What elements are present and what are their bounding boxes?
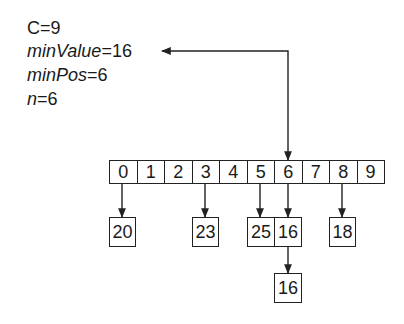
node-value: 16 [278, 278, 298, 299]
array-cell: 5 [247, 160, 276, 184]
value-node: 16 [274, 273, 302, 303]
node-value: 18 [332, 222, 352, 243]
value-node: 16 [274, 217, 302, 247]
node-value: 16 [278, 222, 298, 243]
value-node: 18 [329, 217, 356, 247]
cell-label: 4 [228, 162, 238, 183]
node-value: 25 [251, 222, 271, 243]
array-cell: 6 [274, 160, 303, 184]
cell-label: 7 [311, 162, 321, 183]
cell-label: 6 [283, 162, 293, 183]
node-value: 23 [195, 222, 215, 243]
cell-label: 5 [256, 162, 266, 183]
array-cell: 4 [219, 160, 248, 184]
node-value: 20 [112, 222, 132, 243]
cell-label: 0 [118, 162, 128, 183]
array-cell: 7 [302, 160, 331, 184]
cell-label: 1 [146, 162, 156, 183]
cell-label: 2 [173, 162, 183, 183]
value-node: 23 [192, 217, 219, 247]
cell-label: 3 [201, 162, 211, 183]
array-cell: 3 [192, 160, 221, 184]
array-cell: 9 [357, 160, 385, 184]
array-cell: 1 [137, 160, 166, 184]
array-cell: 0 [109, 160, 138, 184]
cell-label: 8 [338, 162, 348, 183]
min-pointer-arrow [162, 51, 288, 160]
cell-label: 9 [365, 162, 375, 183]
value-node: 25 [247, 217, 275, 247]
array-cell: 8 [329, 160, 358, 184]
value-node: 20 [109, 217, 136, 247]
array-cell: 2 [164, 160, 193, 184]
